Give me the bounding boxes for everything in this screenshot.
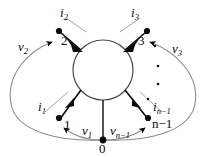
voltage-v2-base: v [18,39,24,54]
voltage-v1-subscript: 1 [88,130,92,140]
current-arrow-in-1 [126,91,141,108]
current-i2-subscript: 2 [64,12,68,22]
voltage-label-v3: v3 [172,42,182,55]
node-label-2: 2 [61,34,68,47]
ellipsis-dot-1 [154,45,157,48]
voltage-label-v2: v2 [18,40,28,53]
voltage-vn-1-subscript: n−1 [116,130,130,140]
current-label-i1: i1 [38,100,46,113]
current-arrow-i1 [65,91,80,108]
node-dot-n-1 [145,115,151,121]
diagram-svg [0,0,205,157]
voltage-v1-base: v [82,123,88,138]
leader-i2 [66,18,86,32]
node-label-0: 0 [99,142,106,155]
current-i1-subscript: 1 [42,106,46,116]
node-label-n-minus-1: n−1 [152,117,172,130]
node-label-1: 1 [64,118,71,131]
current-in-1-subscript: n−1 [157,106,171,116]
voltage-label-vn-1: vn−1 [110,124,130,137]
voltage-label-v1: v1 [82,124,92,137]
voltage-v2-subscript: 2 [24,46,28,56]
network-circle [73,40,133,100]
node-dot-1 [56,115,62,121]
current-i3-subscript: 3 [135,12,139,22]
ellipsis-dot-4 [147,98,149,100]
current-label-in-1: in−1 [153,100,171,113]
voltage-v3-subscript: 3 [178,48,182,58]
voltage-v3-base: v [172,41,178,56]
current-label-i3: i3 [131,6,139,19]
voltage-vn-1-base: v [110,123,116,138]
ellipsis-dot-2 [157,65,160,68]
leader-i1 [45,92,68,112]
figure-canvas: 2 3 1 n−1 0 i2 i3 i1 in−1 v2 v3 v1 vn−1 [0,0,205,157]
node-dot-3 [144,28,150,34]
ellipsis-dot-3 [157,83,160,86]
current-label-i2: i2 [60,6,68,19]
node-label-3: 3 [138,34,145,47]
